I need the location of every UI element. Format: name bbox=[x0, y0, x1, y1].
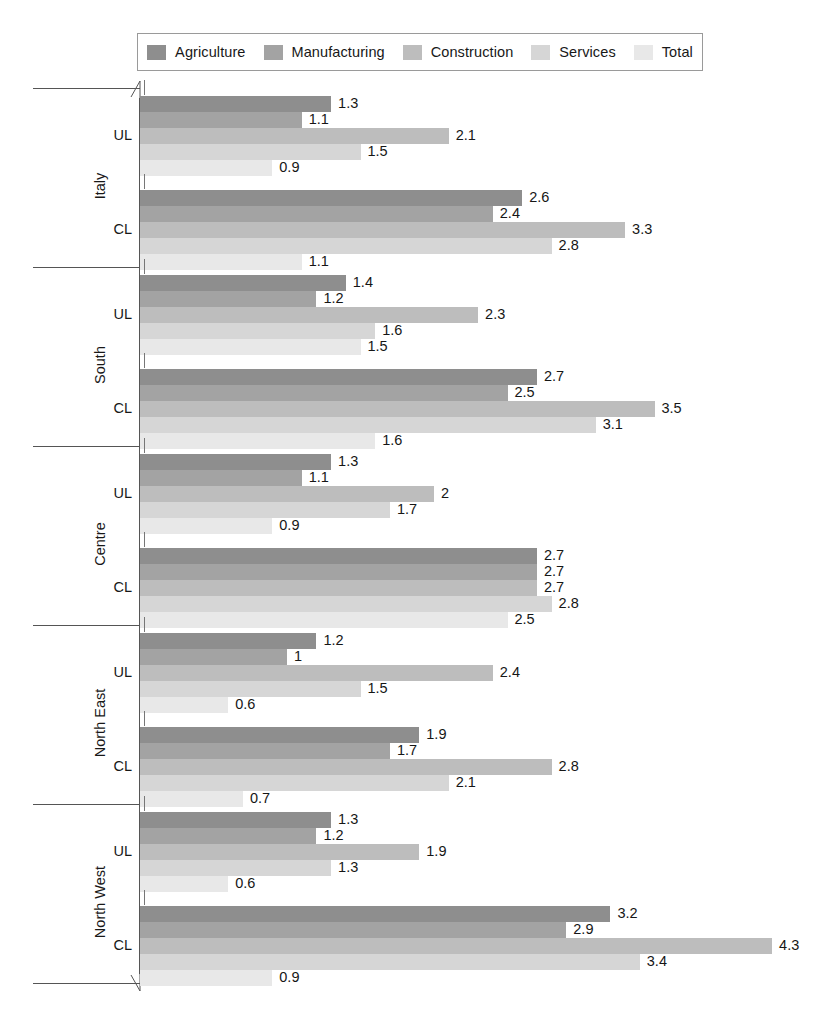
bar-value-label: 1.9 bbox=[426, 843, 446, 859]
bar-value-label: 2.7 bbox=[544, 579, 564, 595]
bar bbox=[140, 112, 302, 128]
bar-value-label: 0.9 bbox=[279, 517, 299, 533]
region-label-text: Italy bbox=[60, 172, 140, 199]
bar bbox=[140, 206, 493, 222]
bar bbox=[140, 596, 552, 612]
bar-value-label: 0.9 bbox=[279, 159, 299, 175]
bar-value-label: 2.1 bbox=[456, 127, 476, 143]
bar bbox=[140, 144, 361, 160]
axis-inner-tick bbox=[144, 259, 145, 274]
bar-value-label: 3.5 bbox=[662, 400, 682, 416]
bar bbox=[140, 759, 552, 775]
bar-value-label: 2.9 bbox=[573, 921, 593, 937]
bar bbox=[140, 339, 361, 355]
axis-inner-tick bbox=[144, 174, 145, 189]
bar-value-label: 1.7 bbox=[397, 742, 417, 758]
legend-entry: Services bbox=[531, 44, 615, 60]
bar-value-label: 1.2 bbox=[323, 290, 343, 306]
bar-value-label: 1.2 bbox=[323, 632, 343, 648]
bar bbox=[140, 812, 331, 828]
group-separator bbox=[33, 804, 140, 805]
subgroup-label-ul: UL bbox=[88, 843, 132, 859]
bar bbox=[140, 922, 566, 938]
bar bbox=[140, 323, 375, 339]
bar bbox=[140, 385, 508, 401]
bar bbox=[140, 128, 449, 144]
bar-value-label: 1.6 bbox=[382, 432, 402, 448]
legend-entry: Manufacturing bbox=[264, 44, 385, 60]
bar bbox=[140, 275, 346, 291]
region-label-text: North West bbox=[60, 865, 140, 937]
bar-value-label: 1.3 bbox=[338, 811, 358, 827]
bar bbox=[140, 938, 772, 954]
bar bbox=[140, 417, 596, 433]
bar bbox=[140, 633, 316, 649]
bar-value-label: 2.8 bbox=[559, 237, 579, 253]
bar bbox=[140, 518, 272, 534]
bar bbox=[140, 564, 537, 580]
bar bbox=[140, 970, 272, 986]
bar bbox=[140, 906, 610, 922]
bar-value-label: 1.5 bbox=[368, 143, 388, 159]
bar-value-label: 1.2 bbox=[323, 827, 343, 843]
bar bbox=[140, 433, 375, 449]
bar bbox=[140, 612, 508, 628]
bar bbox=[140, 681, 361, 697]
bar bbox=[140, 828, 316, 844]
legend-swatch-agriculture bbox=[147, 45, 166, 60]
bar bbox=[140, 291, 316, 307]
bar bbox=[140, 580, 537, 596]
bar-value-label: 1.7 bbox=[397, 501, 417, 517]
bar bbox=[140, 401, 655, 417]
axis-inner-tick bbox=[144, 617, 145, 632]
legend-label: Services bbox=[559, 44, 615, 60]
axis-inner-tick bbox=[144, 890, 145, 905]
bar-value-label: 0.9 bbox=[279, 969, 299, 985]
bar-value-label: 2.7 bbox=[544, 368, 564, 384]
bar-value-label: 2.6 bbox=[529, 189, 549, 205]
bar-value-label: 3.3 bbox=[632, 221, 652, 237]
bar-value-label: 0.6 bbox=[235, 875, 255, 891]
subgroup-label-cl: CL bbox=[88, 221, 132, 237]
bar bbox=[140, 697, 228, 713]
axis-inner-tick bbox=[144, 80, 145, 95]
chart-legend: AgricultureManufacturingConstructionServ… bbox=[137, 33, 703, 71]
legend-label: Manufacturing bbox=[292, 44, 385, 60]
bar-value-label: 1 bbox=[294, 648, 302, 664]
bar bbox=[140, 307, 478, 323]
subgroup-label-ul: UL bbox=[88, 485, 132, 501]
bar bbox=[140, 954, 640, 970]
bar-chart: AgricultureManufacturingConstructionServ… bbox=[0, 0, 834, 1024]
bar-value-label: 2.8 bbox=[559, 758, 579, 774]
bar-value-label: 1.1 bbox=[309, 253, 329, 269]
bar-value-label: 1.1 bbox=[309, 111, 329, 127]
bar-value-label: 1.4 bbox=[353, 274, 373, 290]
legend-entry: Agriculture bbox=[147, 44, 245, 60]
legend-entry: Construction bbox=[403, 44, 514, 60]
legend-swatch-services bbox=[531, 45, 550, 60]
bar-value-label: 1.5 bbox=[368, 338, 388, 354]
bar bbox=[140, 190, 522, 206]
bar bbox=[140, 470, 302, 486]
region-label-text: Centre bbox=[60, 522, 140, 566]
bar bbox=[140, 649, 287, 665]
bar-value-label: 2.1 bbox=[456, 774, 476, 790]
legend-swatch-construction bbox=[403, 45, 422, 60]
legend-label: Total bbox=[662, 44, 693, 60]
bar-value-label: 3.2 bbox=[617, 905, 637, 921]
group-separator bbox=[33, 625, 140, 626]
bar bbox=[140, 454, 331, 470]
bar bbox=[140, 254, 302, 270]
bar-value-label: 2.4 bbox=[500, 205, 520, 221]
bar-value-label: 0.6 bbox=[235, 696, 255, 712]
bar bbox=[140, 791, 243, 807]
bar bbox=[140, 369, 537, 385]
subgroup-label-ul: UL bbox=[88, 306, 132, 322]
region-label-text: North East bbox=[60, 688, 140, 757]
bar-value-label: 1.3 bbox=[338, 95, 358, 111]
bar-value-label: 2.5 bbox=[515, 384, 535, 400]
subgroup-label-cl: CL bbox=[88, 579, 132, 595]
bar bbox=[140, 222, 625, 238]
group-separator bbox=[33, 267, 140, 268]
subgroup-label-ul: UL bbox=[88, 664, 132, 680]
